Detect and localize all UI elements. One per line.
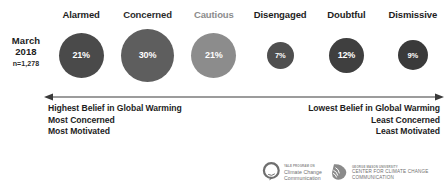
speech-bubble-icon [262,162,281,185]
segment-disengaged: Disengaged 7% [247,8,313,86]
bubble-slot: 7% [247,24,313,86]
segment-dismissive: Dismissive 9% [380,8,446,86]
period-label: March 2018 n=1,278 [4,36,48,68]
segment-label: Doubtful [327,8,365,22]
segment-bubble: 9% [398,40,428,70]
left-descriptor-line3: Most Motivated [48,126,182,138]
george-mason-logo: George Mason University Center for Clima… [330,162,429,185]
segment-concerned: Concerned 30% [114,8,180,86]
segment-label: Cautious [194,8,234,22]
sample-size: n=1,278 [4,60,48,68]
left-descriptor: Highest Belief in Global Warming Most Co… [48,103,182,138]
yale-logo-text: Yale Program on Climate Change Communica… [284,165,322,181]
period-year: 2018 [4,47,48,58]
segment-row: Alarmed 21% Concerned 30% Cautious 21% D… [48,8,446,90]
bubble-slot: 12% [313,24,379,86]
right-descriptor-line2: Least Concerned [308,115,440,127]
logo-row: Yale Program on Climate Change Communica… [262,158,446,188]
segment-alarmed: Alarmed 21% [48,8,114,86]
segment-bubble: 21% [59,33,104,78]
right-descriptor: Lowest Belief in Global Warming Least Co… [308,103,440,138]
mason-logo-line1: Center for Climate Change [352,169,429,174]
double-arrow-icon [44,92,444,102]
bubble-slot: 30% [114,24,180,86]
segment-bubble: 12% [329,38,364,73]
right-descriptor-line3: Least Motivated [308,126,440,138]
segment-bubble: 7% [267,42,294,69]
belief-axis-arrow [44,92,444,102]
bubble-slot: 21% [181,24,247,86]
mason-shield-icon [330,162,349,185]
segment-cautious: Cautious 21% [181,8,247,86]
mason-logo-line2: Communication [352,175,429,180]
mason-logo-text: George Mason University Center for Clima… [352,166,429,180]
segment-label: Alarmed [63,8,100,22]
six-americas-chart: March 2018 n=1,278 Alarmed 21% Concerned… [0,0,448,192]
yale-program-logo: Yale Program on Climate Change Communica… [262,162,322,185]
yale-logo-line2: Communication [284,175,322,181]
right-descriptor-line1: Lowest Belief in Global Warming [308,103,440,115]
bubble-slot: 21% [48,24,114,86]
yale-logo-line1: Climate Change [284,169,322,175]
segment-bubble: 30% [121,29,174,82]
left-descriptor-line1: Highest Belief in Global Warming [48,103,182,115]
segment-bubble: 21% [191,33,236,78]
segment-label: Disengaged [254,8,307,22]
left-descriptor-line2: Most Concerned [48,115,182,127]
segment-doubtful: Doubtful 12% [313,8,379,86]
segment-label: Concerned [123,8,172,22]
segment-label: Dismissive [388,8,437,22]
bubble-slot: 9% [380,24,446,86]
